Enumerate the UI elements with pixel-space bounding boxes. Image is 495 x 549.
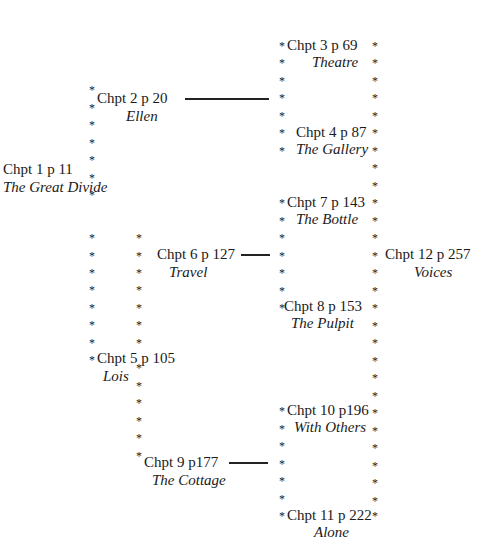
chapter-title: Ellen bbox=[126, 107, 158, 125]
chapter-label: Chpt 11 p 222 bbox=[287, 506, 372, 524]
chapter-label: Chpt 4 p 87 bbox=[296, 123, 366, 141]
chapter-title: Lois bbox=[103, 367, 129, 385]
chapter-title: The Cottage bbox=[152, 471, 226, 489]
chapter-label: Chpt 2 p 20 bbox=[97, 89, 167, 107]
chapter-label: Chpt 6 p 127 bbox=[157, 245, 235, 263]
chapter-label: Chpt 8 p 153 bbox=[284, 297, 362, 315]
chapter-title: The Bottle bbox=[296, 210, 358, 228]
chapter-label: Chpt 5 p 105 bbox=[97, 349, 175, 367]
chapter-label: Chpt 7 p 143 bbox=[287, 193, 365, 211]
chapter-title: Voices bbox=[414, 263, 452, 281]
chapter-title: The Pulpit bbox=[291, 314, 354, 332]
chapter-title: With Others bbox=[294, 418, 366, 436]
chapter-label: Chpt 9 p177 bbox=[144, 453, 218, 471]
chapter-labels: Chpt 1 p 11 The Great Divide Chpt 2 p 20… bbox=[0, 0, 495, 549]
chapter-label: Chpt 1 p 11 bbox=[3, 160, 73, 178]
chapter-title: Theatre bbox=[312, 53, 358, 71]
chapter-title: Travel bbox=[169, 263, 207, 281]
chapter-title: The Gallery bbox=[296, 140, 368, 158]
chapter-label: Chpt 12 p 257 bbox=[385, 245, 470, 263]
chapter-title: The Great Divide bbox=[3, 178, 107, 196]
chapter-label: Chpt 3 p 69 bbox=[287, 36, 357, 54]
chapter-title: Alone bbox=[314, 523, 349, 541]
chapter-label: Chpt 10 p196 bbox=[287, 401, 369, 419]
